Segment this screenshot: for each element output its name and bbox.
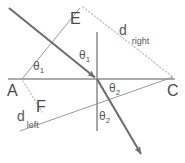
refraction-diagram: A C E F dright dleft θ1 θ1 θ2 θ2 bbox=[0, 0, 185, 163]
point-label-F: F bbox=[36, 99, 46, 115]
incident-ray bbox=[9, 8, 95, 78]
distance-label-d-right: dright bbox=[119, 22, 144, 38]
point-label-A: A bbox=[7, 83, 18, 99]
angle-label-theta1-at-A: θ1 bbox=[33, 60, 44, 75]
theta1-A-subscript: 1 bbox=[40, 66, 44, 75]
theta1-normal-subscript: 1 bbox=[86, 55, 90, 64]
diagram-canvas bbox=[0, 0, 185, 163]
d-left-subscript: left bbox=[27, 121, 39, 130]
theta2-upper-subscript: 2 bbox=[116, 88, 120, 97]
point-label-C: C bbox=[167, 83, 179, 99]
angle-label-theta2-lower: θ2 bbox=[99, 110, 110, 125]
theta1-normal-symbol: θ bbox=[79, 48, 86, 62]
theta2-upper-symbol: θ bbox=[109, 81, 116, 95]
d-right-subscript: right bbox=[132, 37, 150, 46]
angle-label-theta2-upper: θ2 bbox=[109, 82, 120, 97]
theta1-A-symbol: θ bbox=[33, 59, 40, 73]
distance-label-d-left: dleft bbox=[17, 108, 37, 124]
theta2-lower-symbol: θ bbox=[99, 109, 106, 123]
point-label-E: E bbox=[70, 11, 81, 27]
d-left-base: d bbox=[17, 108, 25, 124]
d-right-base: d bbox=[119, 22, 127, 38]
theta2-lower-subscript: 2 bbox=[106, 116, 110, 125]
angle-label-theta1-at-normal: θ1 bbox=[79, 49, 90, 64]
